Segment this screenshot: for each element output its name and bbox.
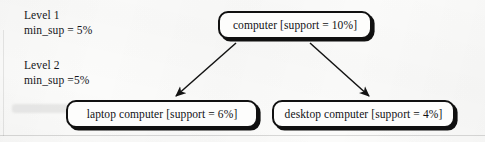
concept-hierarchy-figure: Level 1 min_sup = 5% Level 2 min_sup =5%… xyxy=(0,0,485,142)
node-desktop-computer-label: desktop computer [support = 4%] xyxy=(285,108,443,120)
arrow-computer-to-desktop xyxy=(310,43,369,96)
node-laptop-computer-label: laptop computer [support = 6%] xyxy=(87,108,238,120)
node-computer: computer [support = 10%] xyxy=(218,11,372,39)
node-desktop-computer: desktop computer [support = 4%] xyxy=(272,100,455,128)
node-laptop-computer: laptop computer [support = 6%] xyxy=(66,100,258,128)
arrow-computer-to-laptop xyxy=(176,43,236,96)
node-computer-label: computer [support = 10%] xyxy=(233,19,357,31)
